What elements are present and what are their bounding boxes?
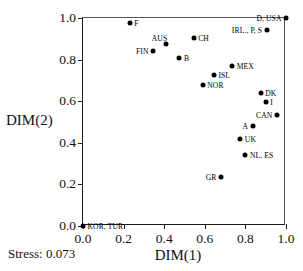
data-point-label: B — [184, 53, 189, 62]
y-axis-tick-label: 0.6 — [59, 93, 76, 109]
data-point-label: CH — [198, 33, 209, 42]
data-point — [284, 16, 289, 21]
scatter-plot-figure: 0.00.20.40.60.81.00.00.20.40.60.81.0KOR,… — [0, 0, 303, 271]
data-point — [81, 224, 86, 229]
data-point — [274, 112, 279, 117]
x-axis-tick — [164, 224, 165, 229]
y-axis-tick-label: 0.4 — [59, 135, 76, 151]
data-point-label: CAN — [256, 110, 272, 119]
x-axis-tick-label: 0.6 — [196, 231, 213, 247]
data-point — [230, 63, 235, 68]
y-axis-tick-label: 1.0 — [59, 10, 76, 26]
data-point — [243, 153, 248, 158]
data-point-label: MEX — [237, 61, 254, 70]
x-axis-title: DIM(1) — [155, 247, 202, 264]
data-point-label: F — [134, 19, 138, 28]
y-axis-tick — [78, 184, 83, 185]
x-axis-tick — [245, 224, 246, 229]
x-axis-tick — [124, 224, 125, 229]
data-point — [263, 100, 268, 105]
data-point — [258, 90, 263, 95]
y-axis-tick — [78, 101, 83, 102]
data-point-label: ISL — [218, 71, 230, 80]
y-axis-tick-label: 0.2 — [59, 176, 76, 192]
data-point — [200, 82, 205, 87]
y-axis-tick — [78, 18, 83, 19]
y-axis-tick — [78, 60, 83, 61]
data-point-label: D, USA — [256, 14, 281, 23]
y-axis-tick-label: 0.0 — [59, 218, 76, 234]
data-point-label: DK — [265, 88, 276, 97]
data-point — [177, 55, 182, 60]
x-axis-tick-label: 0.2 — [115, 231, 132, 247]
x-axis-tick — [205, 224, 206, 229]
data-point-label: NOR — [207, 80, 223, 89]
x-axis-tick-label: 0.0 — [75, 231, 92, 247]
data-point — [250, 124, 255, 129]
data-point-label: IRL., P, S — [232, 26, 262, 35]
data-point-label: NL, ES — [250, 151, 273, 160]
y-axis-tick-label: 0.8 — [59, 52, 76, 68]
y-axis-tick — [78, 143, 83, 144]
data-point — [219, 175, 224, 180]
data-point — [191, 35, 196, 40]
data-point — [238, 136, 243, 141]
data-point — [211, 73, 216, 78]
data-point-label: I — [270, 98, 273, 107]
data-point-label: AUS — [152, 34, 168, 43]
data-point — [127, 21, 132, 26]
plot-area: 0.00.20.40.60.81.00.00.20.40.60.81.0KOR,… — [82, 17, 285, 225]
data-point-label: KOR, TUR — [88, 222, 124, 231]
data-point-label: GR — [206, 173, 217, 182]
y-axis-title: DIM(2) — [6, 112, 53, 129]
data-point — [151, 49, 156, 54]
x-axis-tick — [286, 224, 287, 229]
stress-annotation: Stress: 0.073 — [8, 246, 75, 262]
data-point-label: A — [242, 122, 248, 131]
x-axis-tick-label: 1.0 — [278, 231, 295, 247]
x-axis-tick-label: 0.8 — [237, 231, 254, 247]
x-axis-tick-label: 0.4 — [156, 231, 173, 247]
data-point-label: UK — [245, 134, 256, 143]
data-point-label: FIN — [136, 47, 149, 56]
data-point — [264, 28, 269, 33]
